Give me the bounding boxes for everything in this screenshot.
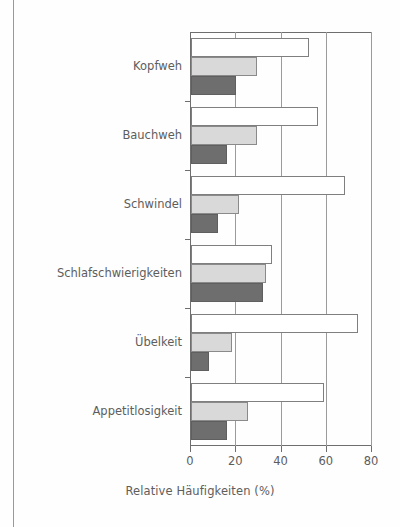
bar-appetitlosigkeit-s3	[191, 421, 227, 440]
bar-belkeit-s3	[191, 352, 209, 371]
x-tick-20	[235, 446, 236, 452]
bar-schlafschwierigkeiten-s2	[191, 264, 266, 283]
category-tick	[185, 377, 190, 378]
bar-group	[191, 170, 372, 239]
category-label-schlafschwierigkeiten: Schlafschwierigkeiten	[2, 266, 182, 280]
x-axis: 020406080	[190, 446, 372, 486]
category-label-kopfweh: Kopfweh	[2, 59, 182, 73]
x-tick-label-20: 20	[215, 454, 255, 468]
bar-bauchweh-s3	[191, 145, 227, 164]
category-label-appetitlosigkeit: Appetitlosigkeit	[2, 404, 182, 418]
x-tick-0	[190, 446, 191, 452]
bar-kopfweh-s3	[191, 76, 236, 95]
bar-group	[191, 308, 372, 377]
bar-group	[191, 377, 372, 446]
x-tick-label-40: 40	[261, 454, 301, 468]
bar-group	[191, 239, 372, 308]
x-tick-60	[326, 446, 327, 452]
x-tick-80	[371, 446, 372, 452]
category-label-schwindel: Schwindel	[2, 197, 182, 211]
category-label-belkeit: Übelkeit	[2, 335, 182, 349]
x-axis-title: Relative Häufigkeiten (%)	[0, 484, 400, 498]
x-tick-label-80: 80	[351, 454, 391, 468]
page-canvas: KopfwehBauchwehSchwindelSchlafschwierigk…	[0, 0, 400, 527]
grouped-bar-chart: KopfwehBauchwehSchwindelSchlafschwierigk…	[0, 0, 400, 527]
bar-bauchweh-s2	[191, 126, 257, 145]
category-label-bauchweh: Bauchweh	[2, 128, 182, 142]
bar-belkeit-s2	[191, 333, 232, 352]
bar-bauchweh-s1	[191, 107, 318, 126]
bar-schlafschwierigkeiten-s1	[191, 245, 272, 264]
category-tick	[185, 239, 190, 240]
category-axis-labels: KopfwehBauchwehSchwindelSchlafschwierigk…	[0, 32, 182, 446]
category-tick	[185, 101, 190, 102]
bar-schwindel-s2	[191, 195, 239, 214]
category-tick	[185, 308, 190, 309]
category-tick	[185, 170, 190, 171]
bar-group	[191, 32, 372, 101]
bar-schwindel-s1	[191, 176, 345, 195]
bar-schlafschwierigkeiten-s3	[191, 283, 263, 302]
bar-appetitlosigkeit-s1	[191, 383, 324, 402]
plot-area	[190, 32, 372, 446]
x-tick-40	[281, 446, 282, 452]
x-tick-label-0: 0	[170, 454, 210, 468]
bar-schwindel-s3	[191, 214, 218, 233]
x-tick-label-60: 60	[306, 454, 346, 468]
bar-belkeit-s1	[191, 314, 358, 333]
bar-kopfweh-s1	[191, 38, 309, 57]
bar-kopfweh-s2	[191, 57, 257, 76]
bar-appetitlosigkeit-s2	[191, 402, 248, 421]
bar-group	[191, 101, 372, 170]
